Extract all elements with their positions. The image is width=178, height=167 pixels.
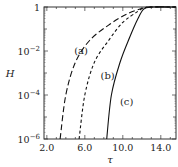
y-tick-label: 1 <box>34 2 40 13</box>
curve-c <box>107 7 176 139</box>
curve-b <box>79 7 176 139</box>
x-tick-label: 10.0 <box>112 142 133 153</box>
curve-label: (c) <box>120 96 134 107</box>
y-tick-label: 10−4 <box>18 89 41 101</box>
y-tick-label: 10−6 <box>18 133 41 145</box>
plot-labels: (a)(b)(c) <box>74 45 133 107</box>
x-tick-label: 6.0 <box>77 142 92 153</box>
curve-label: (b) <box>101 70 115 81</box>
chart: 2.06.010.014.0110−210−410−6τH (a)(b)(c) <box>0 0 178 167</box>
y-tick-label: 10−2 <box>18 45 40 57</box>
curve-a <box>60 7 176 139</box>
x-tick-label: 14.0 <box>150 142 171 153</box>
curve-label: (a) <box>74 45 88 56</box>
x-axis-label: τ <box>107 154 113 165</box>
y-axis-label: H <box>5 68 15 79</box>
plot-curves <box>60 7 176 139</box>
plot-axes: 2.06.010.014.0110−210−410−6τH <box>5 2 176 166</box>
x-tick-label: 2.0 <box>39 142 54 153</box>
